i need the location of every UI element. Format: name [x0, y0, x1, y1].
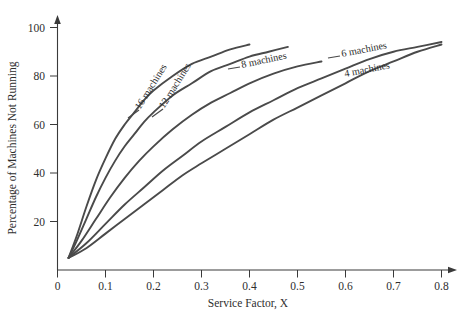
x-axis-title: Service Factor, X: [208, 297, 289, 310]
leader-line-16-machines: [128, 110, 139, 118]
series-label-4-machines: 4 machines: [343, 59, 390, 79]
x-tick-label-0.6: 0.6: [338, 280, 353, 292]
x-axis-arrowhead: [448, 267, 457, 273]
x-tick-label-0.2: 0.2: [146, 280, 161, 292]
y-axis-title: Percentage of Machines Not Running: [6, 61, 19, 234]
y-tick-label-80: 80: [34, 70, 46, 82]
x-tick-label-0.8: 0.8: [434, 280, 449, 292]
y-axis-arrowhead: [54, 15, 61, 24]
y-tick-label-100: 100: [28, 22, 46, 34]
x-ticks-group: 0 0.1 0.2 0.3 0.4 0.5 0.6 0.7 0.8: [55, 270, 449, 292]
y-tick-label-20: 20: [34, 216, 46, 228]
curve-6-machines: [69, 42, 442, 258]
x-tick-label-0.1: 0.1: [98, 280, 113, 292]
axes-group: [54, 15, 457, 273]
leader-line-6-machines: [328, 56, 340, 58]
leader-line-8-machines: [228, 67, 240, 69]
y-ticks-group: 100 80 60 40 20: [28, 22, 58, 228]
x-tick-label-0: 0: [55, 280, 61, 292]
machine-interference-chart: 100 80 60 40 20 0 0.1 0.2 0.3 0.4 0.5 0.…: [0, 0, 470, 316]
y-tick-label-40: 40: [34, 167, 46, 179]
chart-container: 100 80 60 40 20 0 0.1 0.2 0.3 0.4 0.5 0.…: [0, 0, 470, 316]
x-tick-label-0.5: 0.5: [290, 280, 305, 292]
x-tick-label-0.4: 0.4: [242, 280, 257, 292]
y-tick-label-60: 60: [34, 119, 46, 131]
curve-8-machines: [69, 61, 322, 257]
curve-4-machines: [69, 44, 442, 257]
x-axis-title-text: Service Factor, X: [208, 297, 289, 310]
series-curves-group: [69, 42, 442, 258]
x-tick-label-0.7: 0.7: [386, 280, 401, 292]
x-tick-label-0.3: 0.3: [194, 280, 209, 292]
